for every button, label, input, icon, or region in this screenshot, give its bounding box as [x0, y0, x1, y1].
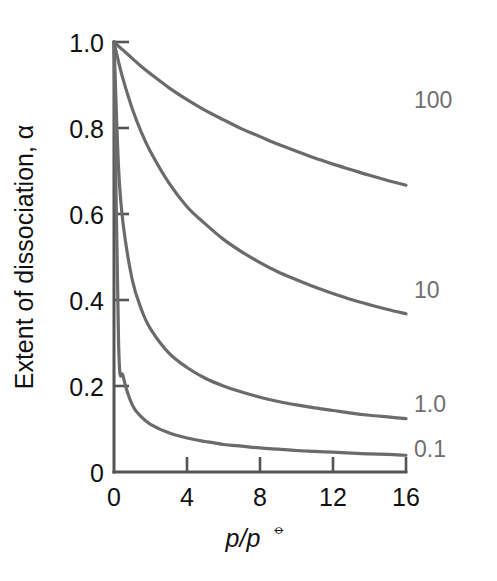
curve-label-0.1: 0.1 — [414, 436, 446, 462]
curve-labels: 100 10 1.0 0.1 — [414, 87, 452, 462]
x-axis-title-main: p/p — [225, 524, 261, 552]
y-axis-title: Extent of dissociation, α — [10, 125, 38, 390]
x-axis-tick-labels: 0 4 8 12 16 — [107, 483, 420, 511]
x-tick-label-0: 0 — [107, 483, 121, 511]
y-tick-label-0.6: 0.6 — [69, 201, 104, 229]
x-tick-label-12: 12 — [319, 483, 347, 511]
x-tick-label-8: 8 — [253, 483, 267, 511]
y-tick-label-1.0: 1.0 — [69, 29, 104, 57]
y-tick-label-0.4: 0.4 — [69, 287, 104, 315]
x-axis-title: p/p ⦵ — [225, 520, 286, 552]
figure-container: 1.0 0.8 0.6 0.4 0.2 0 0 4 8 12 16 100 10… — [0, 0, 497, 581]
y-axis-tick-labels: 1.0 0.8 0.6 0.4 0.2 0 — [69, 29, 104, 487]
curve-10 — [114, 42, 406, 314]
standard-state-icon: ⦵ — [273, 520, 286, 537]
data-curves — [114, 42, 406, 455]
y-tick-label-0: 0 — [90, 459, 104, 487]
curve-label-10: 10 — [414, 277, 440, 303]
x-tick-label-4: 4 — [180, 483, 194, 511]
y-tick-label-0.2: 0.2 — [69, 373, 104, 401]
x-axis-ticks — [187, 457, 406, 472]
curve-label-1.0: 1.0 — [414, 391, 446, 417]
curve-1.0 — [114, 42, 406, 419]
curve-0.1 — [114, 42, 406, 455]
y-tick-label-0.8: 0.8 — [69, 115, 104, 143]
curve-label-100: 100 — [414, 87, 452, 113]
x-tick-label-16: 16 — [392, 483, 420, 511]
dissociation-chart: 1.0 0.8 0.6 0.4 0.2 0 0 4 8 12 16 100 10… — [0, 0, 497, 581]
